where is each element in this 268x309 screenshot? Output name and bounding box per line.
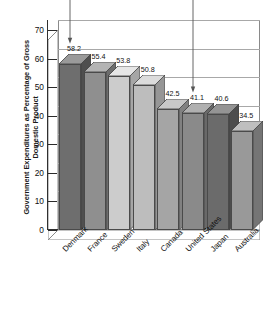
- gridline: [58, 77, 260, 78]
- plot-back-wall: [58, 20, 260, 230]
- y-tick-mark: [48, 59, 57, 60]
- y-tick-mark: [48, 230, 57, 231]
- y-tick-label: 0: [22, 225, 44, 235]
- y-tick-label: 40: [22, 111, 44, 121]
- gridline: [58, 191, 260, 192]
- y-tick-mark: [48, 87, 57, 88]
- y-tick-mark: [48, 30, 57, 31]
- y-tick-label: 70: [22, 25, 44, 35]
- y-tick-mark: [48, 144, 57, 145]
- y-tick-label: 10: [22, 196, 44, 206]
- plot-area: [48, 20, 260, 240]
- gridline: [58, 163, 260, 164]
- y-tick-label: 30: [22, 139, 44, 149]
- gridline: [58, 134, 260, 135]
- y-tick-mark: [48, 173, 57, 174]
- gridline: [58, 20, 260, 21]
- gridline: [58, 49, 260, 50]
- y-tick-label: 50: [22, 82, 44, 92]
- y-tick-mark: [48, 201, 57, 202]
- gridline: [58, 106, 260, 107]
- y-tick-label: 20: [22, 168, 44, 178]
- y-tick-mark: [48, 116, 57, 117]
- y-tick-label: 60: [22, 54, 44, 64]
- bar-chart: Government Expenditures as Percentage of…: [0, 0, 268, 309]
- y-axis-line: [47, 20, 48, 230]
